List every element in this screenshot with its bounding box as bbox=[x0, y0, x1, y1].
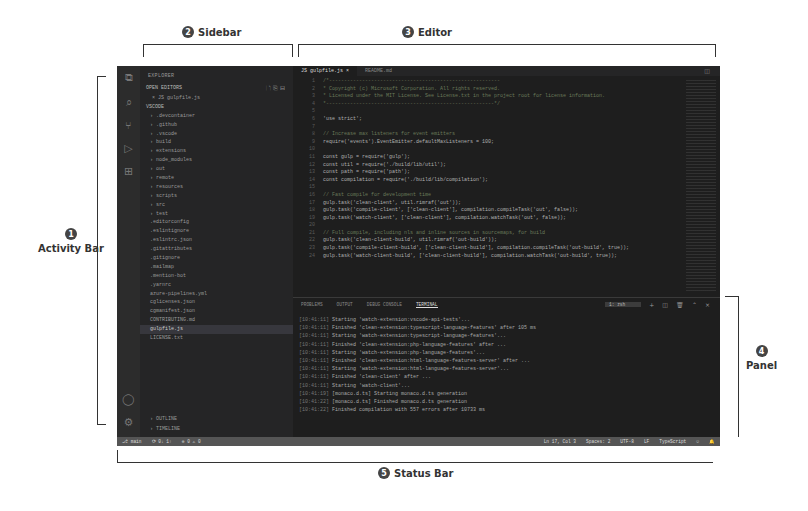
account-icon[interactable]: ◯ bbox=[122, 393, 135, 406]
tree-item[interactable]: .mailmap bbox=[140, 263, 293, 272]
tree-item[interactable]: › resources bbox=[140, 183, 293, 192]
sidebar-title: EXPLORER bbox=[148, 73, 174, 79]
encoding[interactable]: UTF-8 bbox=[620, 439, 634, 444]
open-editors-header[interactable]: OPEN EDITORS bbox=[146, 85, 286, 91]
language-mode[interactable]: TypeScript bbox=[659, 439, 686, 444]
sidebar-bracket bbox=[143, 44, 293, 57]
annotation-status-bar: 5 Status Bar bbox=[378, 467, 453, 479]
feedback-icon[interactable]: ☺ bbox=[696, 439, 699, 444]
trash-icon[interactable]: 🗑 bbox=[676, 301, 684, 308]
timeline-section[interactable]: › TIMELINE bbox=[150, 426, 180, 432]
tree-item[interactable]: LICENSE.txt bbox=[140, 334, 293, 343]
tab-problems[interactable]: PROBLEMS bbox=[301, 302, 323, 308]
tree-item[interactable]: › extensions bbox=[140, 147, 293, 156]
problems-indicator[interactable]: ⊗ 0 ⚠ 0 bbox=[182, 439, 201, 444]
files-icon[interactable]: ⧉ bbox=[122, 71, 135, 84]
settings-gear-icon[interactable]: ⚙ bbox=[122, 416, 135, 429]
annotation-label: Panel bbox=[746, 360, 777, 371]
code-line: 9require('events').EventEmitter.defaultM… bbox=[293, 139, 683, 147]
terminal-select[interactable]: 1: zsh bbox=[605, 302, 641, 307]
terminal-output[interactable]: [10:41:11] Starting 'watch-extension:vsc… bbox=[299, 316, 536, 414]
tree-item[interactable]: .eslintrc.json bbox=[140, 236, 293, 245]
run-debug-icon[interactable]: ▷ bbox=[122, 142, 135, 155]
annotation-activity-bar: 1 Activity Bar bbox=[38, 228, 104, 254]
search-icon[interactable]: ⌕ bbox=[122, 96, 135, 109]
extensions-icon[interactable]: ⊞ bbox=[122, 165, 135, 178]
close-icon[interactable]: × bbox=[705, 301, 710, 308]
source-control-icon[interactable]: ⑂ bbox=[122, 119, 135, 132]
editor-bracket bbox=[298, 44, 716, 57]
tab-gulpfile[interactable]: JS gulpfile.js × bbox=[293, 66, 357, 76]
annotation-label: Editor bbox=[418, 27, 452, 38]
code-line: 14const compilation = require('./build/l… bbox=[293, 177, 683, 185]
tree-item[interactable]: › node_modules bbox=[140, 156, 293, 165]
code-line: 20 bbox=[293, 222, 683, 230]
tree-item[interactable]: .eslintignore bbox=[140, 227, 293, 236]
tab-terminal[interactable]: TERMINAL bbox=[416, 302, 438, 308]
tab-debug-console[interactable]: DEBUG CONSOLE bbox=[367, 302, 402, 308]
annotation-panel: 4 Panel bbox=[746, 345, 777, 371]
code-line: 6'use strict'; bbox=[293, 116, 683, 124]
panel: PROBLEMS OUTPUT DEBUG CONSOLE TERMINAL 1… bbox=[293, 297, 720, 438]
terminal-line: [10:41:11] Starting 'watch-extension:typ… bbox=[299, 332, 536, 340]
tree-item[interactable]: azure-pipelines.yml bbox=[140, 290, 293, 299]
terminal-line: [10:41:11] Starting 'watch-extension:vsc… bbox=[299, 316, 536, 324]
tree-item[interactable]: › .devcontainer bbox=[140, 112, 293, 121]
tree-item[interactable]: › scripts bbox=[140, 192, 293, 201]
code-line: 10 bbox=[293, 146, 683, 154]
tree-item[interactable]: › test bbox=[140, 210, 293, 219]
tree-item[interactable]: .editorconfig bbox=[140, 218, 293, 227]
tab-output[interactable]: OUTPUT bbox=[337, 302, 353, 308]
tree-item[interactable]: › out bbox=[140, 165, 293, 174]
tab-readme[interactable]: README.md bbox=[357, 66, 400, 76]
notifications-icon[interactable]: 🔔 bbox=[709, 439, 715, 444]
indentation[interactable]: Spaces: 2 bbox=[586, 439, 610, 444]
code-area[interactable]: 1/*-------------------------------------… bbox=[293, 78, 683, 260]
split-terminal-icon[interactable]: ◫ bbox=[662, 301, 668, 308]
tree-item[interactable]: .gitattributes bbox=[140, 245, 293, 254]
annotation-label: Activity Bar bbox=[38, 243, 104, 254]
line-ending[interactable]: LF bbox=[644, 439, 649, 444]
tree-item[interactable]: cgmanifest.json bbox=[140, 307, 293, 316]
code-line: 22gulp.task('clean-client-build', util.r… bbox=[293, 237, 683, 245]
split-editor-icon[interactable]: ◫ bbox=[704, 67, 710, 74]
terminal-line: [10:41:11] Starting 'watch-client'... bbox=[299, 382, 536, 390]
new-file-icon[interactable]: 🗋 bbox=[266, 84, 271, 91]
branch-indicator[interactable]: ⎇ main bbox=[122, 439, 142, 444]
terminal-line: [10:41:11] Starting 'watch-extension:php… bbox=[299, 349, 536, 357]
cursor-position[interactable]: Ln 17, Col 3 bbox=[544, 439, 576, 444]
minimap[interactable] bbox=[686, 78, 716, 293]
file-tree: × JS gulpfile.js VSCODE › .devcontainer … bbox=[140, 94, 293, 343]
code-line: 12const util = require('./build/lib/util… bbox=[293, 162, 683, 170]
tree-item[interactable]: › .github bbox=[140, 121, 293, 130]
code-line: 23gulp.task('compile-client-build', ['cl… bbox=[293, 245, 683, 253]
annotation-label: Status Bar bbox=[394, 468, 453, 479]
open-editor-item[interactable]: × JS gulpfile.js bbox=[140, 94, 293, 103]
code-line: 3 * Licensed under the MIT License. See … bbox=[293, 93, 683, 101]
code-line: 11const gulp = require('gulp'); bbox=[293, 154, 683, 162]
tree-item[interactable]: .mention-bot bbox=[140, 272, 293, 281]
add-terminal-icon[interactable]: + bbox=[649, 301, 654, 308]
tree-item[interactable]: CONTRIBUTING.md bbox=[140, 316, 293, 325]
status-bar: ⎇ main ⟳ 0↓ 1↑ ⊗ 0 ⚠ 0 Ln 17, Col 3 Spac… bbox=[117, 437, 720, 446]
sync-indicator[interactable]: ⟳ 0↓ 1↑ bbox=[152, 439, 172, 444]
tree-item[interactable]: › .vscode bbox=[140, 130, 293, 139]
code-line: 17gulp.task('clean-client', util.rimraf(… bbox=[293, 200, 683, 208]
tree-item[interactable]: cglicenses.json bbox=[140, 298, 293, 307]
save-all-icon[interactable]: ⎘ bbox=[273, 84, 278, 91]
code-line: 8// Increase max listeners for event emi… bbox=[293, 131, 683, 139]
tree-item[interactable]: › src bbox=[140, 201, 293, 210]
tree-item[interactable]: .gitignore bbox=[140, 254, 293, 263]
annotation-editor: 3 Editor bbox=[402, 26, 452, 38]
tree-item-selected[interactable]: gulpfile.js bbox=[140, 325, 293, 334]
collapse-all-icon[interactable]: ⊟ bbox=[280, 84, 285, 91]
outline-section[interactable]: › OUTLINE bbox=[150, 416, 177, 422]
folder-header[interactable]: VSCODE bbox=[140, 103, 293, 112]
maximize-icon[interactable]: ⌃ bbox=[692, 301, 697, 308]
code-line: 1/*-------------------------------------… bbox=[293, 78, 683, 86]
terminal-line: [10:41:11] Finished 'clean-extension:htm… bbox=[299, 357, 536, 365]
tree-item[interactable]: › build bbox=[140, 138, 293, 147]
tree-item[interactable]: .yarnrc bbox=[140, 281, 293, 290]
code-line: 13const path = require('path'); bbox=[293, 169, 683, 177]
tree-item[interactable]: › remote bbox=[140, 174, 293, 183]
